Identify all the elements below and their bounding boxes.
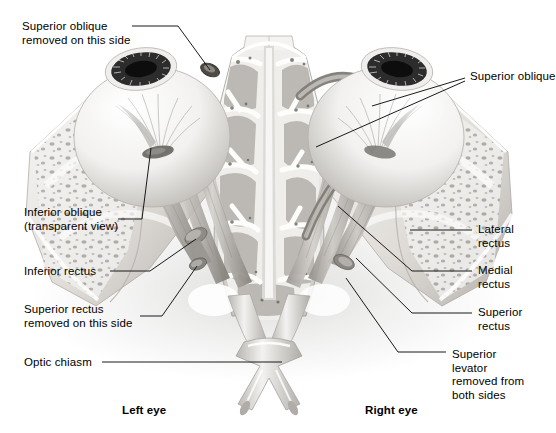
label-optic-chiasm: Optic chiasm	[24, 356, 92, 370]
label-right-eye: Right eye	[365, 404, 418, 418]
label-inferior-rectus: Inferior rectus	[24, 265, 96, 279]
label-superior-rectus-removed: Superior rectus removed on this side	[24, 303, 132, 330]
label-inferior-oblique: Inferior oblique (transparent view)	[24, 206, 118, 233]
label-superior-oblique: Superior oblique	[470, 70, 556, 84]
label-medial-rectus: Medial rectus	[478, 264, 513, 291]
label-lateral-rectus: Lateral rectus	[478, 223, 514, 250]
right-eyeball	[308, 43, 464, 207]
label-superior-oblique-removed: Superior oblique removed on this side	[22, 20, 130, 47]
label-superior-rectus: Superior rectus	[478, 306, 522, 333]
label-superior-levator: Superior levator removed from both sides	[452, 348, 524, 402]
label-left-eye: Left eye	[122, 404, 166, 418]
